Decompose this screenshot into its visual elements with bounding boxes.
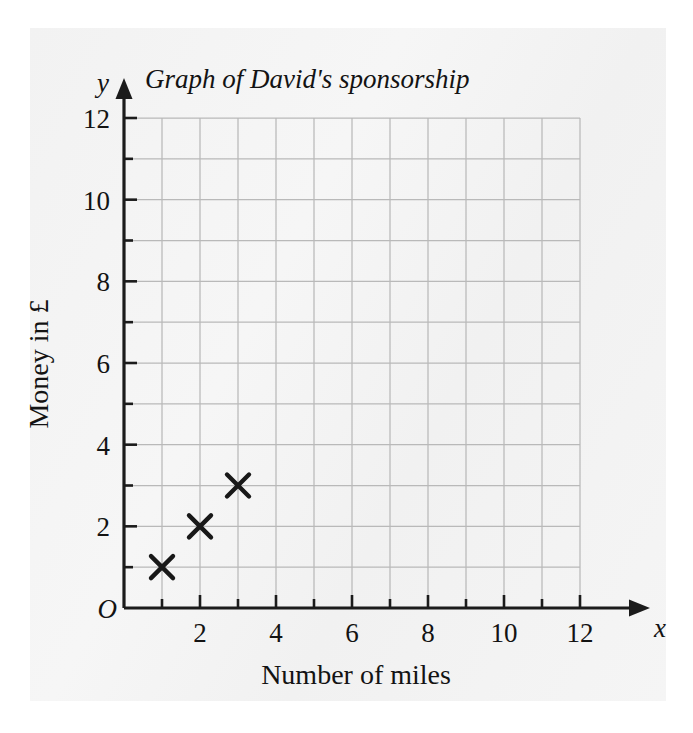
x-tick-label: 12 (567, 618, 594, 648)
origin-label: O (98, 594, 118, 624)
x-tick-label: 8 (421, 618, 435, 648)
chart-title: Graph of David's sponsorship (145, 64, 470, 94)
y-tick-label: 10 (83, 186, 110, 216)
x-tick-label: 4 (269, 618, 283, 648)
x-tick-labels: 24681012 (193, 618, 593, 648)
x-axis-arrow-icon (629, 600, 650, 617)
y-tick-label: 8 (97, 267, 111, 297)
y-axis-title: Money in £ (23, 299, 54, 428)
scatter-plot-canvas: 24681012 24681012 O y x Graph of David's… (0, 0, 693, 733)
x-axis-title: Number of miles (261, 659, 451, 690)
y-tick-labels: 24681012 (83, 104, 111, 542)
x-tick-label: 6 (345, 618, 359, 648)
y-tick-label: 4 (97, 431, 111, 461)
x-axis-symbol-label: x (653, 613, 666, 643)
y-axis-symbol-label: y (94, 68, 109, 98)
y-tick-label: 2 (97, 512, 111, 542)
y-tick-label: 12 (83, 104, 110, 134)
x-tick-label: 10 (491, 618, 518, 648)
y-axis-arrow-icon (116, 78, 133, 99)
x-tick-label: 2 (193, 618, 207, 648)
y-tick-label: 6 (97, 349, 111, 379)
sponsorship-graph-figure: 24681012 24681012 O y x Graph of David's… (0, 0, 693, 733)
